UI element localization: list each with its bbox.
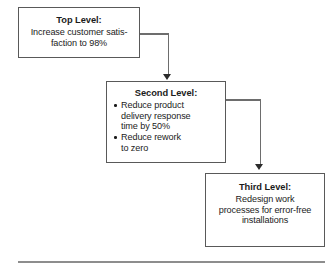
- second-level-bullet-2-line-2: to zero: [121, 143, 225, 154]
- arrowhead-down-icon-second-to-third: [255, 164, 263, 170]
- top-level-title: Top Level:: [19, 15, 139, 26]
- second-level-bullet-1-line-3: time by 50%: [121, 121, 225, 132]
- third-level-box: Third Level: Redesign work processes for…: [205, 173, 325, 247]
- third-level-body-line-1: Redesign work: [206, 194, 324, 205]
- connector-top-to-second-vertical: [168, 33, 169, 74]
- third-level-body-line-3: installations: [206, 215, 324, 226]
- top-level-body-line-1: Increase customer satis-: [19, 27, 139, 38]
- connector-second-to-third-vertical: [260, 99, 261, 164]
- bullet-dot-icon: [114, 136, 117, 139]
- top-level-box: Top Level: Increase customer satis- fact…: [18, 7, 140, 58]
- arrowhead-down-icon-top-to-second: [163, 74, 171, 80]
- third-level-body-line-2: processes for error-free: [206, 205, 324, 216]
- second-level-title: Second Level:: [107, 88, 225, 99]
- second-level-box: Second Level: Reduce product delivery re…: [106, 81, 226, 163]
- connector-top-to-second-horizontal: [140, 33, 169, 34]
- third-level-title: Third Level:: [206, 182, 324, 193]
- bullet-dot-icon: [114, 104, 117, 107]
- list-item: Reduce product delivery response time by…: [114, 100, 225, 132]
- flowchart-diagram: Top Level: Increase customer satis- fact…: [0, 0, 335, 267]
- second-level-bullet-2-line-1: Reduce rework: [121, 132, 225, 143]
- second-level-bullet-list: Reduce product delivery response time by…: [107, 100, 225, 154]
- top-level-body: Increase customer satis- faction to 98%: [19, 27, 139, 48]
- bottom-divider-rule: [18, 261, 325, 263]
- second-level-bullet-1-line-1: Reduce product: [121, 100, 225, 111]
- top-level-body-line-2: faction to 98%: [19, 38, 139, 49]
- second-level-bullet-1-line-2: delivery response: [121, 111, 225, 122]
- connector-second-to-third-horizontal: [226, 99, 261, 100]
- list-item: Reduce rework to zero: [114, 132, 225, 153]
- third-level-body: Redesign work processes for error-free i…: [206, 194, 324, 226]
